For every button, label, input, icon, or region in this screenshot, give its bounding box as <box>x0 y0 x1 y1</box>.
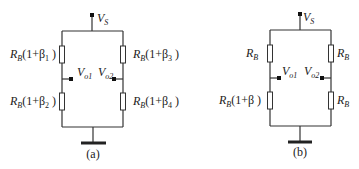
resistor-label-bottom-right-a: RB(1+β4 ) <box>132 94 179 110</box>
resistor-top-right-b <box>329 45 334 62</box>
resistor-label-bottom-left-b: RB(1+β ) <box>218 93 261 109</box>
resistor-top-left-b <box>268 45 273 62</box>
resistor-label-top-right-a: RB(1+β3 ) <box>132 47 179 63</box>
resistor-label-bottom-right-b: RB <box>336 93 349 109</box>
supply-terminal-a <box>90 13 94 17</box>
resistor-top-right-a <box>121 46 126 63</box>
resistor-bottom-right-b <box>329 92 334 109</box>
supply-terminal-b <box>298 12 302 16</box>
resistor-bottom-left-a <box>60 93 65 110</box>
output-terminal-2-b <box>320 76 324 80</box>
resistor-bottom-right-a <box>121 93 126 110</box>
circuit-a: VS RB(1+β1 ) RB(1+β2 ) RB(1+β3 ) RB(1+β4… <box>9 11 179 161</box>
caption-b: (b) <box>293 145 307 159</box>
output-label-2-b: Vo2 <box>304 64 319 80</box>
supply-label-b: VS <box>303 10 314 26</box>
output-label-2-a: Vo2 <box>98 65 113 81</box>
resistor-top-left-a <box>60 46 65 63</box>
resistor-bottom-left-b <box>268 92 273 109</box>
output-label-1-a: Vo1 <box>77 65 92 81</box>
resistor-label-top-left-a: RB(1+β1 ) <box>9 47 56 63</box>
output-terminal-1-b <box>277 76 281 80</box>
bridge-circuits-figure: VS RB(1+β1 ) RB(1+β2 ) RB(1+β3 ) RB(1+β4… <box>0 0 359 169</box>
resistor-label-bottom-left-a: RB(1+β2 ) <box>9 94 56 110</box>
resistor-label-top-right-b: RB <box>336 46 349 62</box>
circuit-b: VS RB RB(1+β ) RB RB Vo1 Vo2 (b) <box>218 10 349 159</box>
output-label-1-b: Vo1 <box>282 64 297 80</box>
resistor-label-top-left-b: RB <box>245 46 258 62</box>
output-terminal-1-a <box>69 77 73 81</box>
supply-label-a: VS <box>97 11 108 27</box>
caption-a: (a) <box>86 147 99 161</box>
